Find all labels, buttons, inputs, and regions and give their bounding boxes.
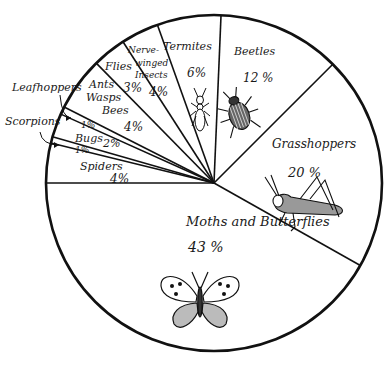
slice-value: 4% bbox=[109, 172, 129, 186]
slice-value: 1% bbox=[75, 145, 89, 155]
external-label: Scorpions bbox=[5, 115, 61, 128]
slice-label: Insects bbox=[134, 70, 168, 80]
slice-label: Nerve- bbox=[127, 45, 159, 55]
slice-value: 2% bbox=[102, 137, 120, 150]
pie-chart: Moths and Butterflies43 %Spiders4%1%Bugs… bbox=[0, 0, 389, 365]
slice-label: Grasshoppers bbox=[272, 137, 356, 151]
slice-label: Beetles bbox=[233, 45, 276, 58]
slice-value: 3% bbox=[123, 81, 142, 95]
slice-value: 4% bbox=[148, 85, 168, 99]
slice-label: Flies bbox=[104, 60, 132, 73]
slice-value: 6% bbox=[187, 66, 206, 80]
slice-label: Ants bbox=[88, 78, 114, 91]
slice-label: Bugs bbox=[74, 132, 103, 145]
slice-label: Moths and Butterflies bbox=[185, 214, 330, 229]
slice-value: 1% bbox=[81, 120, 95, 130]
slice-label: Bees bbox=[101, 104, 129, 117]
external-label: Leafhoppers bbox=[11, 81, 82, 94]
slice-value: 12 % bbox=[243, 71, 274, 85]
slice-label: winged bbox=[135, 58, 168, 68]
slice-value: 43 % bbox=[187, 239, 224, 255]
slice-label: Wasps bbox=[86, 91, 122, 104]
slice-value: 4% bbox=[123, 120, 143, 134]
slice-label: Termites bbox=[163, 40, 212, 53]
